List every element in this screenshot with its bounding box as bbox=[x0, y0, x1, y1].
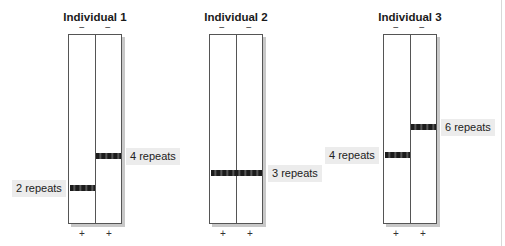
band-2-repeats bbox=[70, 185, 95, 191]
individual-1-title: Individual 1 bbox=[35, 11, 155, 23]
minus-sign: − bbox=[391, 22, 401, 33]
label-4-repeats: 4 repeats bbox=[325, 147, 379, 164]
plus-sign: + bbox=[418, 228, 428, 239]
band-3-repeats bbox=[211, 170, 262, 176]
page-edge-line bbox=[501, 0, 502, 246]
plus-sign: + bbox=[77, 228, 87, 239]
plus-sign: + bbox=[104, 228, 114, 239]
gel-individual-2 bbox=[209, 34, 263, 224]
label-6-repeats: 6 repeats bbox=[441, 119, 495, 136]
plus-sign: + bbox=[391, 228, 401, 239]
band-6-repeats bbox=[411, 124, 436, 130]
lane-divider bbox=[95, 35, 96, 223]
individual-3-title: Individual 3 bbox=[350, 11, 470, 23]
band-4-repeats bbox=[96, 153, 121, 159]
label-2-repeats: 2 repeats bbox=[12, 180, 66, 197]
label-4-repeats: 4 repeats bbox=[126, 148, 180, 165]
gel-individual-3 bbox=[383, 34, 437, 224]
band-4-repeats bbox=[385, 152, 410, 158]
plus-sign: + bbox=[245, 228, 255, 239]
minus-sign: − bbox=[103, 22, 113, 33]
plus-sign: + bbox=[218, 228, 228, 239]
minus-sign: − bbox=[244, 22, 254, 33]
lane-divider bbox=[236, 35, 237, 223]
individual-2-title: Individual 2 bbox=[176, 11, 296, 23]
minus-sign: − bbox=[77, 22, 87, 33]
label-3-repeats: 3 repeats bbox=[268, 165, 322, 182]
minus-sign: − bbox=[217, 22, 227, 33]
minus-sign: − bbox=[417, 22, 427, 33]
gel-individual-1 bbox=[68, 34, 122, 224]
